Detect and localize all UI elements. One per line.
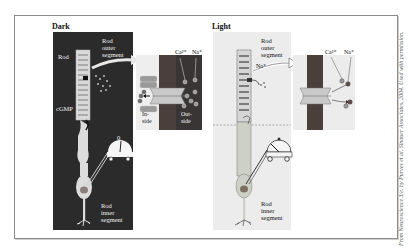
light-panel — [213, 32, 297, 230]
light-title: Light — [212, 23, 231, 31]
light-na-inset-label: Na⁺ — [344, 48, 354, 56]
light-rod-outer-segment-label: Rod outer segment — [261, 37, 283, 58]
light-channel-inset — [293, 55, 355, 130]
permission-credit: From Neuroscience 3/e, by Purves et al. … — [398, 31, 404, 246]
light-na-label: Na⁺ — [256, 62, 266, 70]
dark-rod-outer-segment-label: Rod outer segment — [102, 37, 124, 58]
dark-na-label: Na⁺ — [192, 48, 202, 56]
dark-rod-inner-segment-label: Rod inner segment — [101, 202, 123, 223]
light-rod-inner-segment-label: Rod inner segment — [261, 200, 283, 221]
dark-panel — [53, 32, 140, 230]
dark-ca-label: Ca²⁺ — [175, 48, 187, 56]
phototransduction-diagram — [0, 0, 414, 251]
outside-label: Out- side — [181, 111, 192, 124]
meter-zero-label: 0 — [117, 134, 120, 142]
cgmp-label: cGMP — [56, 105, 73, 113]
light-ca-label: Ca²⁺ — [325, 48, 337, 56]
rod-label: Rod — [58, 53, 69, 61]
dark-title: Dark — [52, 23, 70, 31]
inside-label: In- side — [142, 111, 152, 124]
